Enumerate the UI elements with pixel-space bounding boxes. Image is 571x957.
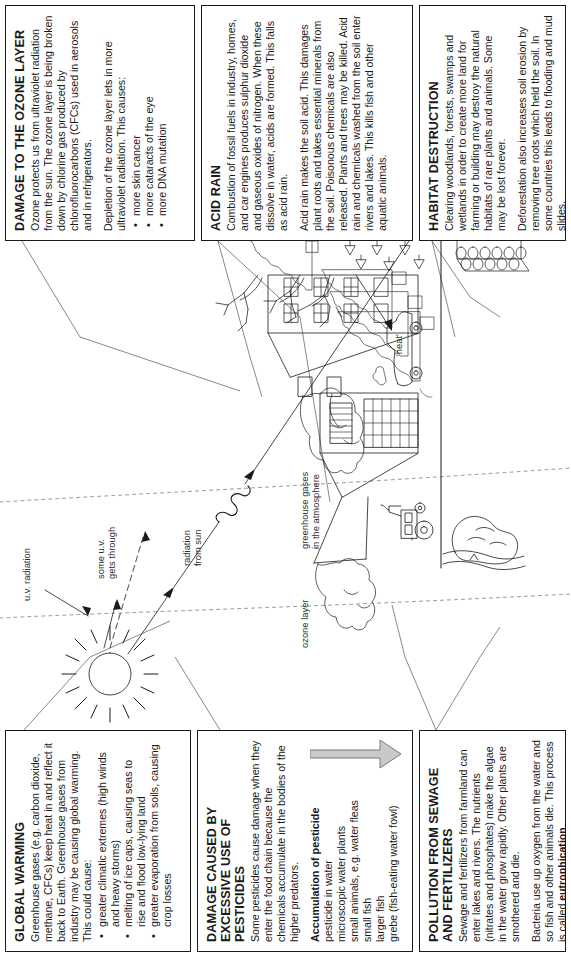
panel-acid-para1: Combustion of fossil fuels in industry, … — [225, 15, 290, 231]
list-item: more skin cancer — [130, 15, 143, 216]
panel-global-warming: GLOBAL WARMING Greenhouse gases (e.g. ca… — [5, 730, 191, 952]
uv-radiation-arrow — [45, 590, 91, 616]
label-some-uv-line2: gets through — [107, 527, 118, 579]
label-greenhouse-line2: in the atmosphere — [311, 472, 322, 549]
label-greenhouse-gases: greenhouse gases in the atmosphere — [300, 472, 322, 549]
panel-ozone-para1: Ozone protects us from ultraviolet radia… — [29, 15, 94, 231]
environment-illustration: u.v. radiation some u.v. gets through ra… — [0, 241, 571, 730]
tractor-icon — [381, 503, 433, 540]
label-uv-radiation: u.v. radiation — [22, 548, 33, 601]
panel-pest-title-line2: EXCESSIVE USE OF PESTICIDES — [219, 819, 247, 942]
panel-sewage-title-line1: POLLUTION FROM SEWAGE — [427, 768, 441, 942]
rotated-page-wrapper: u.v. radiation some u.v. gets through ra… — [0, 0, 571, 957]
panel-pest-subhead: Accumulation of pesticide — [309, 740, 321, 942]
list-item: greater climatic extremes (high winds an… — [96, 740, 122, 927]
panel-sewage-eutrophication: eutrophication — [556, 827, 566, 901]
conifer-trees — [251, 241, 434, 381]
list-item: more DNA mutation — [156, 15, 169, 216]
panel-pest-chain: pesticide in water microscopic water pla… — [322, 740, 400, 942]
accumulation-arrow-icon — [310, 739, 402, 769]
list-item: pesticide in water — [322, 740, 335, 942]
factory-building — [314, 393, 418, 563]
diagram-svg — [0, 241, 571, 730]
panel-acid-rain: ACID RAIN Combustion of fossil fuels in … — [201, 5, 413, 241]
list-item: microscopic water plants — [335, 740, 348, 942]
label-radiation-line2: from sun — [193, 530, 204, 566]
panel-acid-title: ACID RAIN — [209, 15, 223, 231]
panel-habitat-title: HABITAT DESTRUCTION — [427, 15, 441, 231]
panel-habitat-para2: Deforestation also increases soil erosio… — [516, 15, 566, 231]
saplings — [345, 241, 424, 271]
panel-pest-title: DAMAGE CAUSED BY EXCESSIVE USE OF PESTIC… — [205, 740, 247, 942]
list-item: melting of ice caps, causing seas to ris… — [122, 740, 148, 927]
panel-sewage-para2: Bacteria use up oxygen from the water an… — [530, 740, 566, 942]
panel-sewage-title-line2: AND FERTILIZERS — [441, 829, 455, 942]
list-item: more cataracts of the eye — [143, 15, 156, 216]
panel-habitat-para1: Clearing woodlands, forests, swamps and … — [443, 15, 508, 231]
panel-sewage-title: POLLUTION FROM SEWAGE AND FERTILIZERS — [427, 740, 455, 942]
label-radiation-from-sun: radiation from sun — [182, 530, 204, 566]
panel-global-para1: Greenhouse gases (e.g. carbon dioxide, m… — [29, 740, 94, 942]
factory-smoke — [316, 559, 376, 630]
panel-habitat-destruction: HABITAT DESTRUCTION Clearing woodlands, … — [419, 5, 566, 241]
panel-ozone-bullets: more skin cancer more cataracts of the e… — [130, 15, 169, 231]
panel-sewage-para1: Sewage and fertilizers from farmland can… — [457, 740, 522, 942]
house-smoke — [300, 388, 364, 473]
panel-ozone-para2: Depletion of the ozone layer lets in mor… — [102, 15, 128, 231]
list-item: greater evaporation from soils, causing … — [148, 740, 174, 927]
label-some-uv: some u.v. gets through — [96, 527, 118, 579]
list-item: larger fish — [374, 740, 387, 942]
panel-pest-title-line1: DAMAGE CAUSED BY — [205, 807, 219, 942]
panel-sewage-fertilizers: POLLUTION FROM SEWAGE AND FERTILIZERS Se… — [419, 730, 566, 952]
label-ozone-layer: ozone layer — [300, 600, 311, 648]
diagram-sheet: u.v. radiation some u.v. gets through ra… — [0, 0, 571, 957]
panel-ozone-title: DAMAGE TO THE OZONE LAYER — [13, 15, 27, 231]
panel-sewage-para2-b: . — [556, 824, 566, 827]
list-item: small animals, e.g. water fleas — [348, 740, 361, 942]
panel-global-title: GLOBAL WARMING — [13, 740, 27, 942]
sun-ray-arrow-1 — [104, 599, 121, 648]
greenhouse-layer-line — [0, 468, 571, 502]
panel-ozone-layer: DAMAGE TO THE OZONE LAYER Ozone protects… — [5, 5, 195, 241]
panel-pest-para1: Some pesticides cause damage when they e… — [249, 740, 301, 942]
panel-pesticides: DAMAGE CAUSED BY EXCESSIVE USE OF PESTIC… — [197, 730, 413, 952]
dead-trees — [216, 275, 342, 331]
panel-acid-para2: Acid rain makes the soil acid. This dama… — [298, 15, 389, 231]
lake-shape — [452, 516, 517, 564]
list-item: grebe (fish-eating water fowl) — [387, 740, 400, 942]
list-item: small fish — [361, 740, 374, 942]
sun-icon — [62, 626, 158, 722]
panel-global-bullets: greater climatic extremes (high winds an… — [96, 740, 174, 942]
log-pile — [456, 241, 529, 271]
small-bush — [373, 367, 386, 385]
label-heat: 'heat' — [394, 334, 405, 356]
